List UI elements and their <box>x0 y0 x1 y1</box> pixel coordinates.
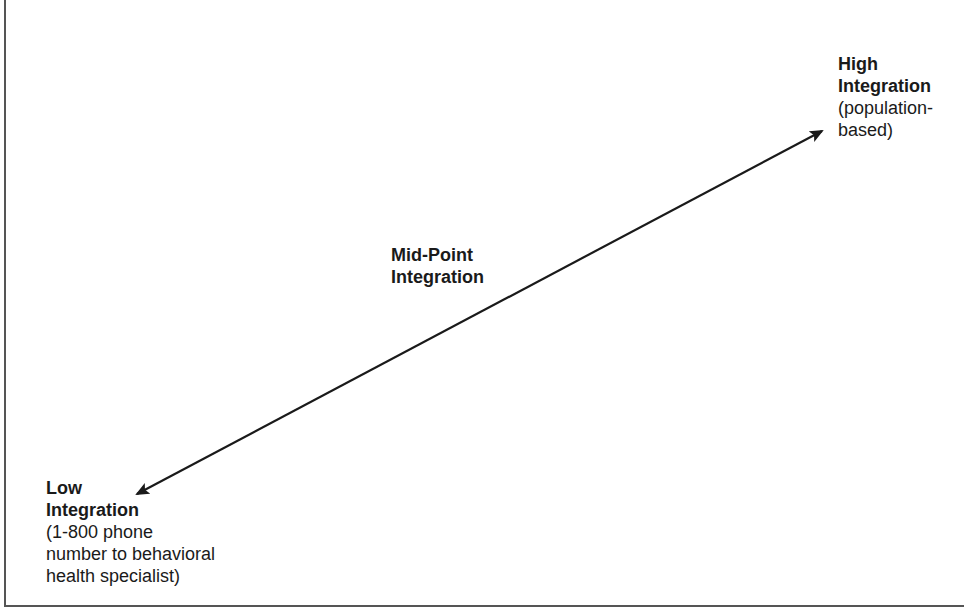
high-integration-label: High Integration (population- based) <box>838 53 958 141</box>
low-integration-desc-2: number to behavioral <box>46 543 286 565</box>
low-integration-title-1: Low <box>46 477 286 499</box>
high-integration-title-2: Integration <box>838 75 958 97</box>
low-integration-title-2: Integration <box>46 499 286 521</box>
low-integration-desc-1: (1-800 phone <box>46 521 286 543</box>
mid-point-integration-label: Mid-Point Integration <box>391 244 531 288</box>
high-integration-title-1: High <box>838 53 958 75</box>
low-integration-label: Low Integration (1-800 phone number to b… <box>46 477 286 587</box>
low-integration-desc-3: health specialist) <box>46 565 286 587</box>
mid-integration-title-1: Mid-Point <box>391 244 531 266</box>
high-integration-desc-1: (population- <box>838 97 958 119</box>
high-integration-desc-2: based) <box>838 119 958 141</box>
mid-integration-title-2: Integration <box>391 266 531 288</box>
